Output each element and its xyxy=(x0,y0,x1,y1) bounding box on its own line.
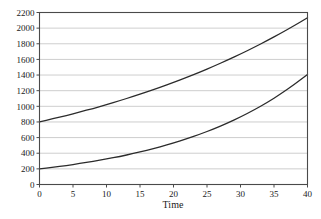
y-tick-label-800: 800 xyxy=(21,117,35,127)
x-tick-label-30: 30 xyxy=(236,189,246,199)
x-tick-label-15: 15 xyxy=(136,189,146,199)
x-axis-tick-group: 0510152025303540 xyxy=(37,185,312,200)
plot-border xyxy=(40,13,308,185)
x-tick-label-20: 20 xyxy=(169,189,179,199)
plot-frame xyxy=(40,13,308,185)
y-tick-label-2000: 2000 xyxy=(17,23,36,33)
x-tick-label-0: 0 xyxy=(37,189,42,199)
y-axis-tick-group: 0200400600800100012001400160018002000220… xyxy=(17,8,40,190)
y-tick-label-400: 400 xyxy=(21,148,35,158)
chart-container: 0200400600800100012001400160018002000220… xyxy=(0,0,321,219)
y-tick-label-600: 600 xyxy=(21,133,35,143)
x-tick-label-5: 5 xyxy=(71,189,76,199)
y-tick-label-1400: 1400 xyxy=(17,70,36,80)
line-chart: 0200400600800100012001400160018002000220… xyxy=(0,0,321,219)
y-tick-label-1600: 1600 xyxy=(17,55,36,65)
x-tick-label-25: 25 xyxy=(203,189,213,199)
x-tick-label-40: 40 xyxy=(303,189,313,199)
y-tick-label-0: 0 xyxy=(30,180,35,190)
x-tick-label-35: 35 xyxy=(270,189,280,199)
y-tick-label-2200: 2200 xyxy=(17,8,36,18)
y-tick-label-200: 200 xyxy=(21,164,35,174)
gridline-group xyxy=(40,28,308,169)
y-tick-label-1800: 1800 xyxy=(17,39,36,49)
y-tick-label-1200: 1200 xyxy=(17,86,36,96)
x-tick-label-10: 10 xyxy=(102,189,112,199)
series-group xyxy=(40,18,308,169)
y-tick-label-1000: 1000 xyxy=(17,102,36,112)
x-axis-title: Time xyxy=(163,199,184,210)
